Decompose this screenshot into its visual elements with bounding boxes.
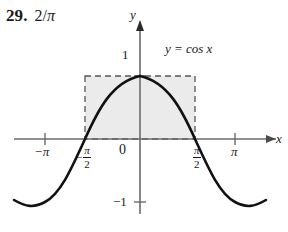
x-tick-label-origin: 0	[119, 143, 126, 157]
y-tick-label-neg-one: −1	[113, 195, 127, 208]
pi-over-2-denominator: 2	[193, 159, 201, 170]
curve-label: y = cos x	[165, 42, 212, 55]
neg-pi-over-2-numerator: π	[83, 145, 91, 156]
y-tick-label-one: 1	[122, 48, 129, 61]
x-tick-label-pi: π	[231, 145, 238, 158]
x-tick-label-neg-pi-over-2: − π 2	[76, 145, 91, 170]
cosine-graph	[0, 0, 288, 232]
neg-pi-over-2-denominator: 2	[83, 159, 91, 170]
x-axis-label: x	[276, 132, 282, 145]
x-tick-label-neg-pi: −π	[34, 145, 49, 158]
neg-pi-over-2-sign: −	[76, 152, 82, 163]
figure-container: 29. 2/π y = cos x y x −π − π	[0, 0, 288, 232]
y-axis-arrowhead	[136, 20, 144, 31]
x-axis-arrowhead	[266, 135, 276, 143]
pi-over-2-numerator: π	[193, 145, 201, 156]
x-tick-label-pi-over-2: π 2	[192, 145, 201, 170]
y-axis-label: y	[130, 8, 136, 21]
